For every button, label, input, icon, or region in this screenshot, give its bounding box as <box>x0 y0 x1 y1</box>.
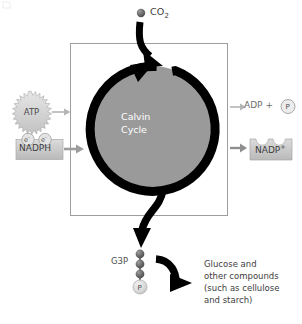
corner-artifact <box>3 2 10 8</box>
nadph-arrow <box>64 145 84 154</box>
products-line-1: Glucose and <box>204 258 279 270</box>
calvin-cycle-center-label: Calvin Cycle <box>121 111 185 137</box>
atp-label: ATP <box>16 107 47 117</box>
products-line-2: other compounds <box>204 270 279 282</box>
adp-label: ADP + <box>244 100 273 111</box>
adp-phosphate-label: P <box>286 103 290 111</box>
atp-arrow <box>52 109 71 116</box>
products-label: Glucose and other compounds (such as cel… <box>204 258 279 306</box>
atp-label-wrap: ATP <box>16 107 47 117</box>
products-line-3: (such as cellulose <box>204 282 279 294</box>
products-line-4: and starch) <box>204 294 279 306</box>
nadph-label: NADPH <box>19 143 51 154</box>
co2-sphere-icon <box>137 9 145 17</box>
g3p-phosphate-label: P <box>138 284 142 292</box>
calvin-line-2: Cycle <box>121 124 185 137</box>
co2-inflow-arrow <box>139 22 163 67</box>
nadp-plus-arrow <box>230 144 247 153</box>
calvin-line-1: Calvin <box>121 111 185 124</box>
g3p-outflow-arrow <box>133 190 163 248</box>
calvin-cycle-diagram: CO2 ATP e- e- NADPH ADP + P NADP+ Calvin… <box>0 0 302 324</box>
co2-label: CO2 <box>150 6 169 20</box>
g3p-label: G3P <box>111 256 128 266</box>
products-arrow <box>156 259 192 292</box>
nadp-plus-label: NADP+ <box>255 144 286 156</box>
